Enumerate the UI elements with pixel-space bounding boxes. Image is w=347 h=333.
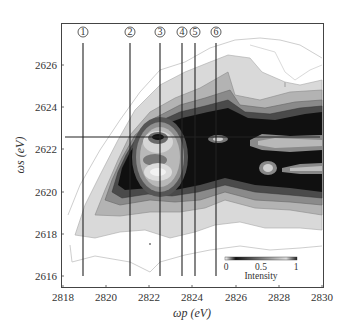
svg-text:4: 4 (180, 26, 185, 37)
svg-text:2618: 2618 (35, 228, 58, 240)
rixs-contour-chart: 1 2 3 4 5 6 0 0.5 1 Intensity (0, 0, 347, 333)
svg-text:2820: 2820 (95, 291, 118, 303)
y-axis-label: ωs (eV) (13, 137, 27, 174)
y-tick-labels: 2616 2618 2620 2622 2624 2626 (35, 59, 58, 282)
svg-text:2818: 2818 (52, 291, 75, 303)
svg-text:2826: 2826 (225, 291, 248, 303)
svg-text:3: 3 (158, 26, 163, 37)
svg-text:2626: 2626 (35, 59, 58, 71)
svg-text:5: 5 (193, 26, 198, 37)
svg-text:2620: 2620 (35, 186, 58, 198)
x-axis-label: ωp (eV) (173, 306, 211, 320)
svg-text:1: 1 (81, 26, 86, 37)
svg-text:2616: 2616 (35, 270, 58, 282)
svg-text:2828: 2828 (268, 291, 291, 303)
colorbar-label: Intensity (244, 271, 277, 281)
svg-text:2624: 2624 (35, 101, 58, 113)
contour-field (62, 23, 324, 288)
svg-text:6: 6 (214, 26, 219, 37)
svg-text:2824: 2824 (181, 291, 204, 303)
svg-text:2: 2 (128, 26, 133, 37)
colorbar-tick-0: 0 (224, 262, 229, 272)
svg-text:2830: 2830 (311, 291, 334, 303)
x-tick-labels: 2818 2820 2822 2824 2826 2828 2830 (52, 291, 334, 303)
svg-text:2622: 2622 (35, 143, 57, 155)
svg-text:2822: 2822 (138, 291, 160, 303)
colorbar-tick-1: 1 (294, 262, 299, 272)
